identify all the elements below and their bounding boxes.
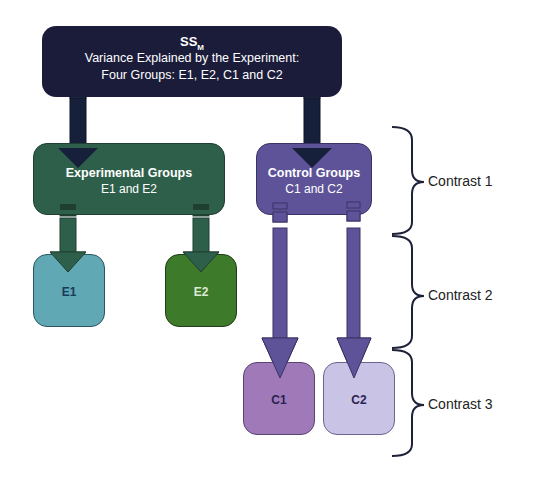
experimental-subtitle: E1 and E2 (34, 182, 224, 196)
ssm-title: SSM (42, 34, 342, 52)
ssm-line2: Four Groups: E1, E2, C1 and C2 (42, 68, 342, 82)
arrow-control-to-c2 (337, 202, 371, 378)
experimental-groups-box: Experimental Groups E1 and E2 (33, 143, 225, 215)
ssm-box: SSM Variance Explained by the Experiment… (42, 26, 342, 97)
arrow-control-to-c1 (262, 203, 298, 378)
contrast-3-label: Contrast 3 (428, 396, 493, 412)
ssm-line1: Variance Explained by the Experiment: (42, 51, 342, 65)
e2-label: E2 (166, 285, 236, 299)
brace-contrast-2 (392, 236, 424, 348)
c2-label: C2 (324, 393, 394, 407)
brace-contrast-3 (392, 350, 424, 456)
group-e2: E2 (165, 254, 237, 327)
group-c1: C1 (243, 362, 315, 435)
group-e1: E1 (33, 254, 105, 327)
control-title: Control Groups (257, 166, 371, 180)
c1-label: C1 (244, 393, 314, 407)
contrast-1-label: Contrast 1 (428, 173, 493, 189)
control-groups-box: Control Groups C1 and C2 (256, 143, 372, 215)
group-c2: C2 (323, 362, 395, 435)
experimental-title: Experimental Groups (34, 166, 224, 180)
contrast-2-label: Contrast 2 (428, 287, 493, 303)
e1-label: E1 (34, 285, 104, 299)
brace-contrast-1 (392, 127, 424, 234)
control-subtitle: C1 and C2 (257, 182, 371, 196)
